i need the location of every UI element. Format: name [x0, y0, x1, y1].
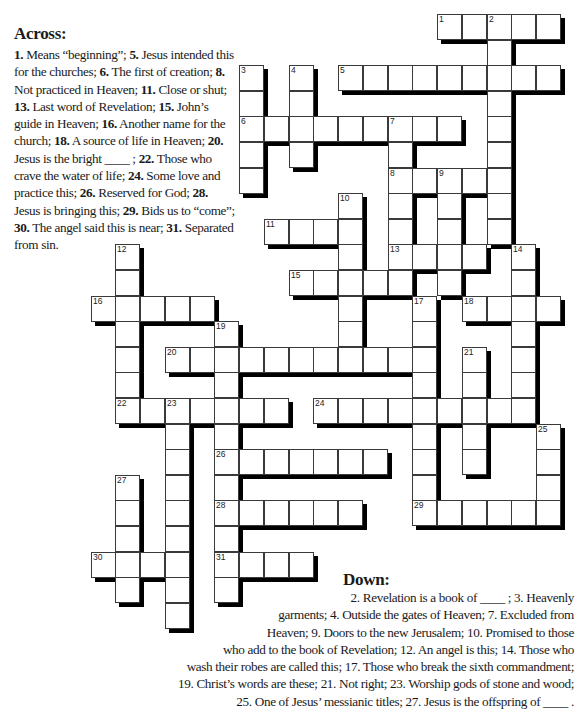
grid-cell[interactable]	[536, 475, 561, 501]
grid-cell[interactable]	[289, 142, 314, 168]
cell-letter-input[interactable]	[265, 220, 288, 244]
cell-letter-input[interactable]	[339, 501, 362, 525]
cell-letter-input[interactable]	[463, 501, 486, 525]
grid-cell[interactable]	[115, 372, 140, 398]
cell-letter-input[interactable]	[240, 450, 263, 474]
cell-letter-input[interactable]	[488, 194, 511, 218]
grid-cell[interactable]: 1	[437, 14, 462, 40]
cell-letter-input[interactable]	[116, 245, 139, 269]
cell-letter-input[interactable]	[537, 15, 560, 39]
cell-letter-input[interactable]	[240, 169, 263, 193]
grid-cell[interactable]	[165, 526, 190, 552]
grid-cell[interactable]	[363, 116, 388, 142]
grid-cell[interactable]	[140, 296, 165, 322]
cell-letter-input[interactable]	[215, 322, 238, 346]
grid-cell[interactable]	[412, 321, 437, 347]
grid-cell[interactable]	[412, 168, 437, 194]
cell-letter-input[interactable]	[339, 220, 362, 244]
grid-cell[interactable]	[338, 500, 363, 526]
grid-cell[interactable]: 21	[462, 347, 487, 373]
grid-cell[interactable]	[437, 65, 462, 91]
grid-cell[interactable]	[388, 65, 413, 91]
cell-letter-input[interactable]	[166, 348, 189, 372]
cell-letter-input[interactable]	[364, 66, 387, 90]
grid-cell[interactable]: 9	[437, 168, 462, 194]
cell-letter-input[interactable]	[389, 169, 412, 193]
grid-cell[interactable]: 15	[289, 270, 314, 296]
cell-letter-input[interactable]	[413, 476, 436, 500]
cell-letter-input[interactable]	[116, 322, 139, 346]
cell-letter-input[interactable]	[463, 169, 486, 193]
grid-cell[interactable]	[115, 296, 140, 322]
grid-cell[interactable]	[115, 270, 140, 296]
cell-letter-input[interactable]	[389, 271, 412, 295]
cell-letter-input[interactable]	[116, 348, 139, 372]
cell-letter-input[interactable]	[166, 450, 189, 474]
cell-letter-input[interactable]	[215, 425, 238, 449]
cell-letter-input[interactable]	[438, 117, 461, 141]
grid-cell[interactable]	[437, 219, 462, 245]
cell-letter-input[interactable]	[240, 501, 263, 525]
grid-cell[interactable]	[487, 219, 512, 245]
grid-cell[interactable]	[437, 270, 462, 296]
grid-cell[interactable]	[412, 424, 437, 450]
grid-cell[interactable]: 10	[338, 193, 363, 219]
grid-cell[interactable]	[487, 168, 512, 194]
grid-cell[interactable]	[487, 40, 512, 66]
cell-letter-input[interactable]	[389, 348, 412, 372]
grid-cell[interactable]	[462, 244, 487, 270]
cell-letter-input[interactable]	[339, 322, 362, 346]
grid-cell[interactable]: 25	[536, 424, 561, 450]
grid-cell[interactable]	[412, 398, 437, 424]
cell-letter-input[interactable]	[413, 348, 436, 372]
cell-letter-input[interactable]	[166, 501, 189, 525]
grid-cell[interactable]	[264, 116, 289, 142]
cell-letter-input[interactable]	[166, 399, 189, 423]
cell-letter-input[interactable]	[314, 450, 337, 474]
grid-cell[interactable]	[487, 193, 512, 219]
cell-letter-input[interactable]	[463, 425, 486, 449]
cell-letter-input[interactable]	[413, 245, 436, 269]
cell-letter-input[interactable]	[166, 476, 189, 500]
grid-cell[interactable]	[511, 65, 536, 91]
grid-cell[interactable]	[239, 347, 264, 373]
cell-letter-input[interactable]	[413, 169, 436, 193]
cell-letter-input[interactable]	[314, 117, 337, 141]
grid-cell[interactable]	[437, 244, 462, 270]
grid-cell[interactable]: 14	[511, 244, 536, 270]
cell-letter-input[interactable]	[215, 527, 238, 551]
cell-letter-input[interactable]	[339, 117, 362, 141]
grid-cell[interactable]	[487, 91, 512, 117]
grid-cell[interactable]	[140, 552, 165, 578]
cell-letter-input[interactable]	[92, 297, 115, 321]
cell-letter-input[interactable]	[215, 373, 238, 397]
grid-cell[interactable]	[313, 347, 338, 373]
cell-letter-input[interactable]	[92, 553, 115, 577]
grid-cell[interactable]: 4	[289, 65, 314, 91]
grid-cell[interactable]	[511, 347, 536, 373]
cell-letter-input[interactable]	[488, 169, 511, 193]
grid-cell[interactable]	[289, 347, 314, 373]
cell-letter-input[interactable]	[512, 348, 535, 372]
cell-letter-input[interactable]	[488, 41, 511, 65]
cell-letter-input[interactable]	[116, 297, 139, 321]
cell-letter-input[interactable]	[389, 194, 412, 218]
cell-letter-input[interactable]	[215, 450, 238, 474]
grid-cell[interactable]	[239, 91, 264, 117]
cell-letter-input[interactable]	[290, 117, 313, 141]
grid-cell[interactable]	[338, 398, 363, 424]
cell-letter-input[interactable]	[166, 297, 189, 321]
grid-cell[interactable]	[239, 168, 264, 194]
cell-letter-input[interactable]	[438, 169, 461, 193]
cell-letter-input[interactable]	[413, 322, 436, 346]
cell-letter-input[interactable]	[438, 194, 461, 218]
cell-letter-input[interactable]	[215, 501, 238, 525]
grid-cell[interactable]	[536, 449, 561, 475]
cell-letter-input[interactable]	[141, 399, 164, 423]
cell-letter-input[interactable]	[413, 66, 436, 90]
grid-cell[interactable]	[487, 116, 512, 142]
cell-letter-input[interactable]	[413, 399, 436, 423]
grid-cell[interactable]	[462, 449, 487, 475]
cell-letter-input[interactable]	[463, 15, 486, 39]
grid-cell[interactable]	[338, 116, 363, 142]
